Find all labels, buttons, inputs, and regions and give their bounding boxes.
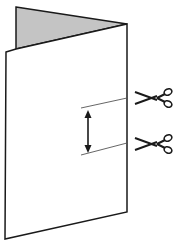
- folded-card-diagram: [0, 0, 179, 246]
- scissors-top-icon: [135, 88, 173, 109]
- front-card-panel: [5, 24, 127, 239]
- scissors-bottom-icon: [135, 134, 173, 155]
